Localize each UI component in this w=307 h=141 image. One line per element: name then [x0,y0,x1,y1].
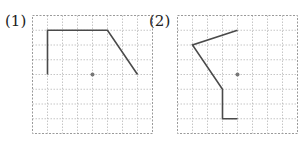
center-point [236,73,240,77]
figure-2-grid [177,15,298,134]
figure-2-label: (2) [149,12,170,30]
center-point [91,73,95,77]
figure-1-grid [32,15,153,134]
figure-1-label: (1) [5,12,26,30]
